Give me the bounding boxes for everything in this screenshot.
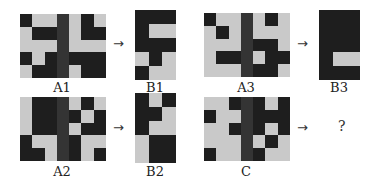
grid-cell [216,13,228,26]
grid-cell [149,121,163,135]
grid-cell [81,148,93,161]
grid-cell [229,110,241,123]
grid-cell [204,148,216,161]
grid-cell [45,65,57,78]
grid-cell [253,110,265,123]
grid-cell [346,24,360,38]
grid-cell [32,27,44,40]
grid-cell [69,97,81,110]
grid-cell [278,13,290,26]
grid-cell [149,93,163,107]
grid-cell [204,110,216,123]
grid-cell [45,97,57,110]
grid-cell [32,97,44,110]
grid-cell [253,13,265,26]
grid-cell [135,10,149,24]
grid-cell [333,38,347,52]
grid-cell [81,110,93,123]
grid-cell [162,38,176,52]
grid-cell [45,123,57,136]
grid-c [204,97,290,161]
grid-cell [241,26,253,39]
grid-a3 [204,13,290,77]
grid-cell [162,10,176,24]
grid-cell [319,24,333,38]
grid-cell [319,66,333,80]
grid-cell [57,110,69,123]
arrow-icon: → [297,39,308,49]
grid-cell [69,148,81,161]
grid-cell [45,40,57,53]
grid-cell [81,52,93,65]
grid-cell [20,14,32,27]
grid-cell [69,110,81,123]
grid-cell [32,148,44,161]
grid-cell [20,52,32,65]
grid-cell [94,135,106,148]
grid-cell [149,66,163,80]
grid-cell [57,52,69,65]
grid-cell [149,24,163,38]
panel-label-b2: B2 [125,165,185,179]
grid-cell [253,123,265,136]
grid-cell [229,26,241,39]
grid-cell [32,40,44,53]
grid-cell [241,39,253,52]
grid-cell [57,40,69,53]
grid-cell [32,52,44,65]
grid-cell [204,26,216,39]
grid-cell [57,97,69,110]
grid-cell [32,123,44,136]
grid-cell [69,123,81,136]
grid-cell [241,51,253,64]
grid-cell [135,135,149,149]
grid-cell [216,39,228,52]
grid-cell [241,13,253,26]
grid-cell [162,24,176,38]
grid-cell [94,14,106,27]
grid-cell [265,110,277,123]
grid-cell [162,52,176,66]
arrow-icon: → [297,123,308,133]
grid-cell [57,65,69,78]
grid-cell [135,93,149,107]
grid-cell [253,64,265,77]
grid-cell [162,135,176,149]
grid-cell [20,27,32,40]
grid-cell [57,27,69,40]
grid-cell [32,135,44,148]
grid-cell [94,123,106,136]
grid-cell [265,51,277,64]
grid-cell [278,64,290,77]
grid-cell [241,148,253,161]
grid-cell [265,39,277,52]
grid-cell [216,97,228,110]
grid-cell [135,66,149,80]
grid-cell [45,27,57,40]
grid-cell [229,13,241,26]
grid-cell [162,107,176,121]
grid-cell [265,26,277,39]
grid-cell [333,10,347,24]
grid-cell [253,97,265,110]
grid-cell [81,123,93,136]
grid-cell [229,64,241,77]
grid-cell [241,97,253,110]
panel-label-a3: A3 [216,81,276,95]
grid-cell [216,123,228,136]
grid-cell [135,149,149,163]
grid-cell [45,14,57,27]
grid-cell [94,110,106,123]
grid-cell [162,93,176,107]
grid-cell [69,52,81,65]
grid-cell [81,40,93,53]
grid-cell [149,52,163,66]
grid-cell [81,65,93,78]
panel-label-a2: A2 [32,165,92,179]
grid-cell [216,64,228,77]
grid-cell [94,27,106,40]
grid-cell [278,39,290,52]
grid-cell [32,14,44,27]
grid-cell [278,148,290,161]
grid-cell [20,123,32,136]
